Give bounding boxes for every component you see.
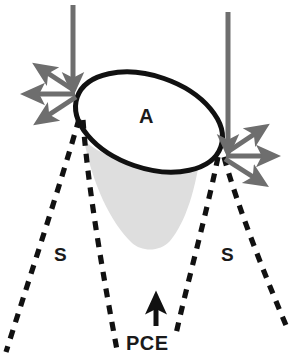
schematic-diagram — [0, 0, 291, 364]
figure-canvas: A S S PCE — [0, 0, 291, 364]
dashed-line-left-outer — [6, 119, 79, 352]
pce-label: PCE — [126, 333, 169, 353]
diverging-arrow-right-up — [226, 131, 259, 153]
sheath-label-left: S — [54, 245, 67, 264]
diverging-arrow-left-down — [44, 97, 76, 118]
aperture-label: A — [139, 106, 153, 126]
diverging-arrow-left-up — [43, 70, 75, 91]
sheath-label-right: S — [221, 245, 234, 264]
